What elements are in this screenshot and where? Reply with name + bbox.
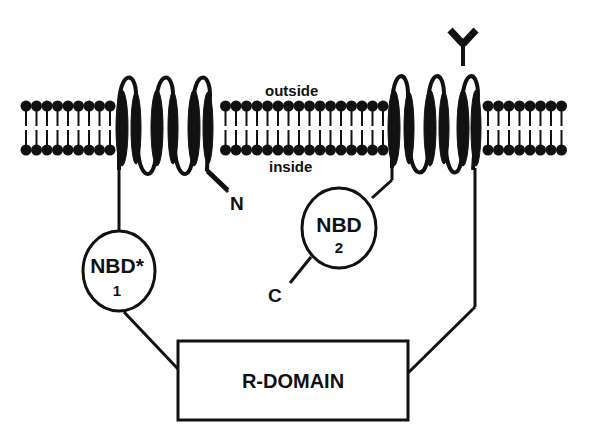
r-domain-label: R-DOMAIN [242, 370, 344, 392]
c-terminus-label: C [268, 285, 282, 306]
n-terminus-label: N [230, 193, 244, 214]
lipid-bilayer [21, 101, 568, 156]
tm-group-2 [388, 76, 481, 172]
glycosylation-site-icon [450, 30, 476, 66]
nbd2-title: NBD [316, 213, 362, 236]
outside-label: outside [265, 82, 318, 99]
nbd2-number: 2 [335, 239, 343, 256]
r-domain: R-DOMAIN [178, 341, 408, 420]
nbd1-domain: NBD* 1 [83, 231, 155, 311]
inside-label: inside [269, 158, 312, 175]
cftr-topology-diagram: NBD* 1 NBD 2 R-DOMAIN outside inside N C [0, 0, 591, 429]
nbd2-domain: NBD 2 [302, 188, 376, 268]
nbd1-number: 1 [113, 282, 121, 299]
nbd1-title: NBD* [90, 254, 144, 277]
tm-group-1 [116, 78, 228, 190]
